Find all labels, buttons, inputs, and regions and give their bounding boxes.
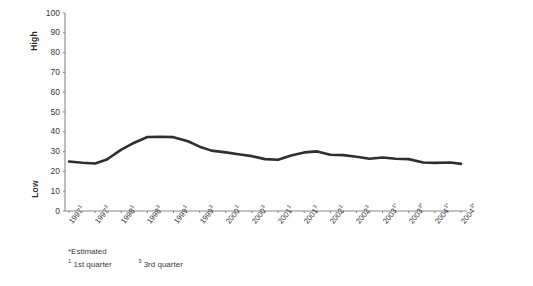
y-axis-tick-label: 100 (46, 9, 60, 18)
chart-figure: High Low 1009080706050403020100 19971199… (0, 0, 533, 286)
chart-footnotes: *Estimated 1 1st quarter 3 3rd quarter (68, 246, 183, 271)
data-series-line (69, 137, 461, 164)
y-axis-tick-label: 0 (55, 207, 60, 216)
footnote-q3-superscript: 3 (138, 258, 141, 264)
footnote-estimated: *Estimated (68, 246, 183, 258)
y-axis-tick-label: 10 (51, 187, 60, 196)
footnote-quarters: 1 1st quarter 3 3rd quarter (68, 259, 183, 271)
y-axis-tick-label: 20 (51, 167, 60, 176)
y-axis-tick-label: 30 (51, 147, 60, 156)
y-axis-tick-label: 70 (51, 68, 60, 77)
y-axis-tick-label: 50 (51, 108, 60, 117)
y-axis-tick-label: 90 (51, 28, 60, 37)
footnote-q3-text: 3rd quarter (144, 260, 183, 269)
line-chart-svg (63, 12, 469, 213)
plot-area (63, 12, 469, 213)
footnote-q1-text: 1st quarter (73, 260, 111, 269)
axes-group (63, 13, 467, 213)
y-axis-tick-label: 60 (51, 88, 60, 97)
x-axis-tick-quarter-superscript: 3* (468, 202, 476, 210)
y-axis-tick-label: 80 (51, 48, 60, 57)
footnote-q1-superscript: 1 (68, 258, 71, 264)
y-axis-tick-labels: 1009080706050403020100 (36, 0, 60, 286)
y-axis-tick-label: 40 (51, 127, 60, 136)
